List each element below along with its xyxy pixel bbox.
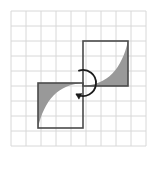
rotation-figure-svg — [0, 0, 163, 170]
figure-container: Rotation of a shaded curved quadrilatera… — [0, 0, 163, 170]
